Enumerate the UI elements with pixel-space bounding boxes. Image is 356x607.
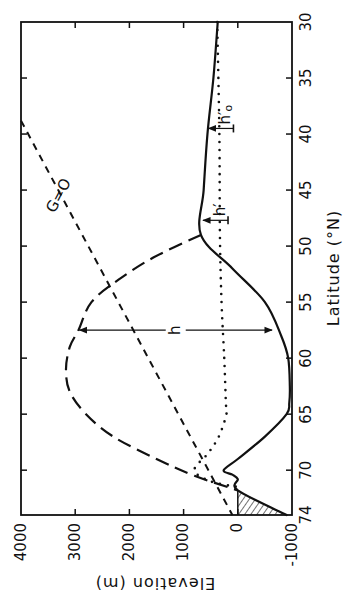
lat-tick-label: 74 [297,505,315,524]
lat-tick-label: 65 [297,405,315,424]
lat-tick-label: 30 [297,12,315,31]
h-prime-zero-label: h′o [216,105,236,125]
elev-tick-label: 3000 [66,523,84,561]
lat-tick-label: 70 [297,461,315,480]
series-short-dash [21,121,232,515]
plot-frame [21,22,292,515]
latitude-axis: 30354045505560657074 [21,12,315,524]
elev-tick-label: 0 [228,523,246,533]
lat-tick-label: 50 [297,237,315,256]
lat-tick-label: 40 [297,124,315,143]
y-axis-title: Elevation (m) [95,574,215,593]
lat-tick-label: 45 [297,181,315,200]
annotations: hh′h′oG=O [42,105,272,335]
chart: 30354045505560657074 40003000200010000-1… [0,0,356,607]
lat-tick-label: 35 [297,68,315,87]
lat-tick-label: 55 [297,293,315,312]
h-label: h [166,325,184,335]
x-axis-title: Latitude (°N) [324,210,343,326]
lat-tick-label: 60 [297,349,315,368]
series-long-dash [66,235,238,490]
series-solid [199,22,290,515]
h-prime-label: h′ [211,203,229,217]
elev-tick-label: 4000 [12,523,30,561]
g-zero-label: G=O [42,175,75,215]
elev-tick-label: 2000 [120,523,138,561]
elev-tick-label: -1000 [283,523,301,567]
elev-tick-label: 1000 [174,523,192,561]
series-lines [21,22,290,515]
